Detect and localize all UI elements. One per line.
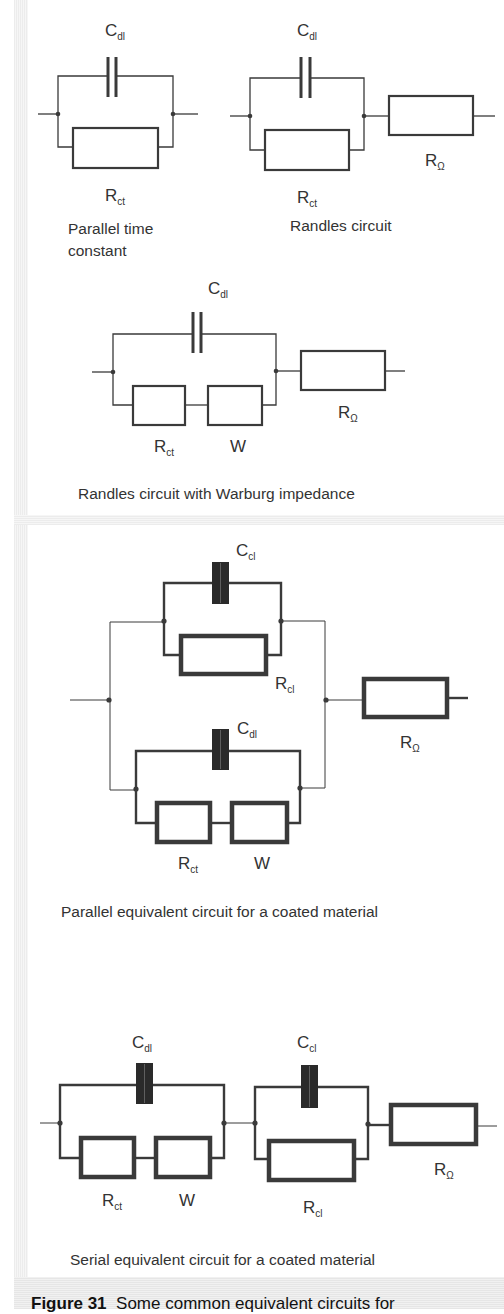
node-dot — [111, 370, 116, 375]
node-dot — [248, 114, 253, 119]
warburg-symbol — [156, 1138, 210, 1177]
wire — [317, 1087, 368, 1124]
node-dot — [171, 112, 176, 117]
figure-caption-text: Some common equivalent circuits for — [116, 1294, 395, 1313]
wire — [228, 583, 281, 621]
label-cdl: Cdl — [208, 279, 228, 300]
figure-number: Figure 31 — [31, 1294, 107, 1313]
wire — [158, 114, 173, 147]
node-dot — [161, 618, 166, 623]
wire — [113, 334, 192, 372]
wire — [60, 1123, 80, 1158]
resistor-rcl-symbol — [181, 636, 266, 674]
label-ccl: Ccl — [236, 541, 256, 562]
circuit-randles-warburg — [92, 312, 405, 425]
circuit-serial-coated — [40, 1063, 497, 1180]
resistor-rct-symbol — [265, 130, 349, 170]
node-dot — [278, 618, 283, 623]
circuit-randles — [230, 57, 495, 170]
node-dot — [252, 1120, 257, 1125]
figure-caption: Figure 31 Some common equivalent circuit… — [31, 1294, 395, 1314]
circuit-parallel-coated — [70, 562, 468, 842]
resistor-rohm-symbol — [391, 1105, 476, 1144]
label-cdl: Cdl — [132, 1033, 152, 1054]
wire — [60, 1085, 136, 1123]
label-ccl: Ccl — [297, 1033, 317, 1054]
wire — [164, 583, 212, 621]
resistor-rohm-symbol — [364, 679, 447, 717]
label-rohm: RΩ — [338, 403, 358, 424]
circuit-parallel-time-constant — [38, 57, 198, 168]
warburg-symbol — [232, 803, 287, 842]
wire — [202, 334, 276, 371]
node-dot — [365, 1121, 370, 1126]
caption-parallel-time-constant-line2: constant — [68, 242, 127, 259]
caption-serial-coated: Serial equivalent circuit for a coated m… — [70, 1251, 375, 1268]
label-rct: Rct — [178, 854, 198, 875]
component-labels: Cdl Rct Cdl Rct RΩ Cdl Rct W RΩ Ccl Rcl … — [102, 21, 454, 1219]
resistor-rohm-symbol — [301, 351, 385, 390]
caption-parallel-coated: Parallel equivalent circuit for a coated… — [61, 903, 378, 920]
label-rct: Rct — [102, 1191, 122, 1212]
wire — [136, 788, 156, 823]
caption-randles-warburg: Randles circuit with Warburg impedance — [78, 485, 355, 502]
wire — [58, 76, 107, 114]
label-w: W — [254, 854, 270, 873]
wire — [280, 621, 325, 788]
node-dot — [362, 114, 367, 119]
wire — [136, 751, 212, 788]
wire — [250, 116, 265, 150]
caption-randles: Randles circuit — [290, 217, 392, 234]
label-rcl: Rcl — [303, 1198, 323, 1219]
caption-parallel-time-constant-line1: Parallel time — [68, 220, 153, 237]
label-cdl: Cdl — [105, 21, 125, 42]
node-dot — [274, 369, 279, 374]
capacitor-cdl-symbol — [108, 57, 116, 97]
label-cdl: Cdl — [297, 21, 317, 42]
resistor-rcl-symbol — [269, 1141, 354, 1180]
label-rohm: RΩ — [425, 151, 445, 172]
warburg-symbol — [208, 386, 262, 425]
label-rohm: RΩ — [400, 733, 420, 754]
label-w: W — [179, 1191, 195, 1210]
node-dot — [297, 785, 302, 790]
resistor-rct-symbol — [133, 386, 185, 425]
label-rct: Rct — [297, 188, 317, 209]
node-dot — [133, 786, 138, 791]
wire — [311, 78, 364, 116]
node-dot — [221, 1120, 226, 1125]
wire — [255, 1123, 268, 1159]
node-dot — [57, 1120, 62, 1125]
node-dot — [323, 697, 328, 702]
wire — [152, 1085, 224, 1123]
wire — [228, 751, 300, 788]
node-dot — [56, 112, 61, 117]
wire — [255, 1087, 301, 1123]
wire — [262, 371, 276, 405]
label-rct: Rct — [154, 437, 174, 458]
label-rct: Rct — [105, 186, 125, 207]
wire — [164, 621, 180, 655]
capacitor-cdl-symbol — [193, 312, 201, 353]
wire — [349, 116, 364, 150]
label-rcl: Rcl — [275, 674, 295, 695]
wire — [117, 76, 173, 114]
wire — [113, 372, 133, 405]
wire — [250, 78, 300, 116]
node-dot — [106, 697, 111, 702]
resistor-rct-symbol — [157, 803, 210, 842]
resistor-rohm-symbol — [389, 96, 473, 135]
capacitor-cdl-symbol — [301, 57, 310, 98]
resistor-rct-symbol — [73, 128, 158, 168]
label-rohm: RΩ — [434, 1160, 454, 1181]
label-w: W — [230, 437, 246, 456]
label-cdl: Cdl — [237, 719, 257, 740]
wire — [58, 114, 73, 147]
resistor-rct-symbol — [81, 1138, 134, 1177]
